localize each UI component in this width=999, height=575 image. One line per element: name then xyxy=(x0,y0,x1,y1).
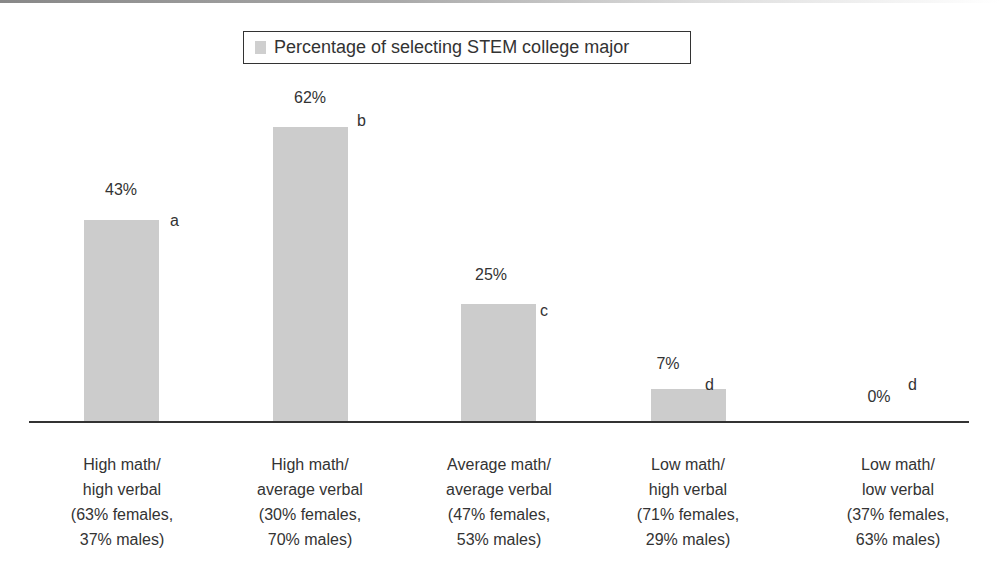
significance-letter: d xyxy=(908,376,917,394)
bar-high-math-high-verbal xyxy=(84,220,159,421)
value-label: 62% xyxy=(270,89,350,107)
category-label-5: Low math/ low verbal (37% females, 63% m… xyxy=(808,452,988,552)
value-label: 43% xyxy=(81,181,161,199)
category-label-2: High math/ average verbal (30% females, … xyxy=(220,452,400,552)
bar-high-math-average-verbal xyxy=(273,127,348,421)
category-label-3: Average math/ average verbal (47% female… xyxy=(409,452,589,552)
plot-area: 43% a 62% b 25% c 7% d 0% d High math/ h… xyxy=(0,0,999,575)
x-axis-line xyxy=(29,421,969,423)
significance-letter: a xyxy=(170,212,179,230)
value-label: 0% xyxy=(839,388,919,406)
significance-letter: b xyxy=(357,112,366,130)
category-label-4: Low math/ high verbal (71% females, 29% … xyxy=(598,452,778,552)
value-label: 7% xyxy=(628,355,708,373)
significance-letter: d xyxy=(705,376,714,394)
category-label-1: High math/ high verbal (63% females, 37%… xyxy=(32,452,212,552)
value-label: 25% xyxy=(451,266,531,284)
significance-letter: c xyxy=(540,302,548,320)
bar-low-math-high-verbal xyxy=(651,389,726,421)
bar-average-math-average-verbal xyxy=(461,304,536,421)
